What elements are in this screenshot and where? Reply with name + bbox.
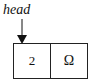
list-node: 2 Ω <box>13 43 88 79</box>
node-next-cell: Ω <box>51 44 87 78</box>
node-data-cell: 2 <box>14 44 51 78</box>
